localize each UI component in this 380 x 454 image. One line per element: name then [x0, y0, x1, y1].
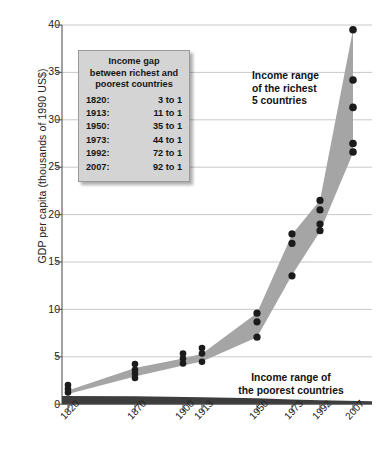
- inset-row-year: 1950:: [86, 120, 110, 133]
- inset-row: 1820: 3 to 1: [86, 94, 182, 107]
- inset-row: 1950: 35 to 1: [86, 120, 182, 133]
- chart-container: GDP per capita (thousands of 1990 US$) 4…: [0, 0, 380, 454]
- inset-title: Income gap between richest and poorest c…: [86, 56, 182, 91]
- inset-row-year: 1913:: [86, 107, 110, 120]
- inset-rows: 1820: 3 to 1 1913: 11 to 1 1950: 35 to 1…: [86, 94, 182, 174]
- inset-row-year: 1973:: [86, 134, 110, 147]
- annotation-richest-line-1: Income range: [252, 70, 344, 83]
- inset-row-ratio: 92 to 1: [153, 161, 182, 174]
- inset-row-year: 1992:: [86, 147, 110, 160]
- annotation-richest-line-3: 5 countries: [252, 95, 344, 108]
- inset-row-year: 2007:: [86, 161, 110, 174]
- inset-row-ratio: 3 to 1: [158, 94, 182, 107]
- inset-row-ratio: 72 to 1: [153, 147, 182, 160]
- inset-row-year: 1820:: [86, 94, 110, 107]
- inset-row: 1973: 44 to 1: [86, 134, 182, 147]
- annotation-poorest-line-1: Income range of: [216, 372, 366, 385]
- inset-row: 1913: 11 to 1: [86, 107, 182, 120]
- inset-title-line-3: poorest countries: [86, 79, 182, 91]
- income-gap-inset-panel: Income gap between richest and poorest c…: [78, 50, 190, 182]
- annotation-poorest-line-2: the poorest countries: [216, 385, 366, 398]
- inset-title-line-1: Income gap: [86, 56, 182, 68]
- inset-row: 1992: 72 to 1: [86, 147, 182, 160]
- inset-row-ratio: 44 to 1: [153, 134, 182, 147]
- inset-row: 2007: 92 to 1: [86, 161, 182, 174]
- annotation-richest-line-2: of the richest: [252, 83, 344, 96]
- inset-row-ratio: 11 to 1: [153, 107, 182, 120]
- annotation-richest-range: Income range of the richest 5 countries: [252, 70, 344, 108]
- annotation-poorest-range: Income range of the poorest countries: [216, 372, 366, 397]
- inset-title-line-2: between richest and: [86, 68, 182, 80]
- y-axis: [56, 25, 62, 404]
- inset-row-ratio: 35 to 1: [153, 120, 182, 133]
